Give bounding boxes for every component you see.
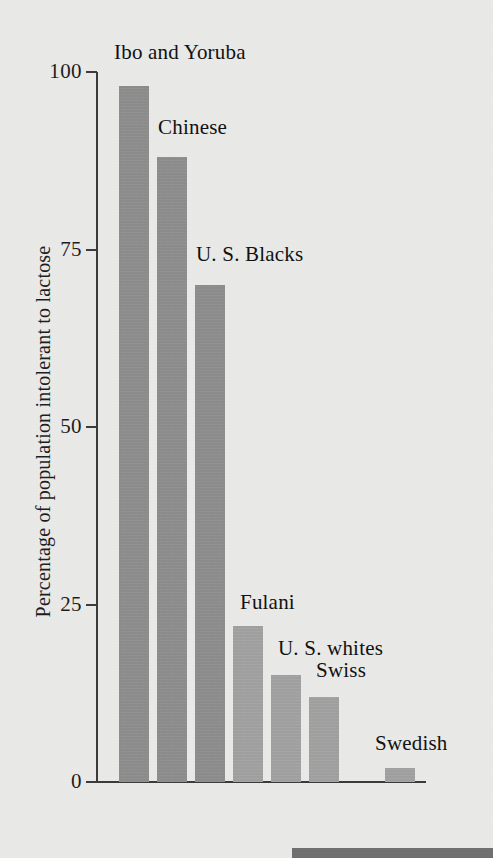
bar-chinese [157, 157, 187, 782]
bar-label-swedish: Swedish [375, 733, 448, 754]
bar-label-fulani: Fulani [240, 592, 295, 613]
bar-us-whites [271, 675, 301, 782]
bar-label-us-whites: U. S. whites [278, 638, 383, 659]
y-tick-mark-100 [86, 71, 97, 73]
bar-fill [385, 768, 415, 782]
bar-label-us-blacks: U. S. Blacks [196, 244, 303, 265]
y-tick-mark-50 [86, 426, 97, 428]
bar-fill [233, 626, 263, 782]
y-tick-mark-75 [86, 249, 97, 251]
bar-swedish [385, 768, 415, 782]
bar-fill [157, 157, 187, 782]
bar-us-blacks [195, 285, 225, 782]
bar-fill [119, 86, 149, 782]
bar-label-ibo-and-yoruba: Ibo and Yoruba [114, 42, 246, 63]
bar-fulani [233, 626, 263, 782]
bar-swiss [309, 697, 339, 782]
bar-fill [271, 675, 301, 782]
bar-fill [309, 697, 339, 782]
bar-label-chinese: Chinese [158, 117, 227, 138]
lactose-intolerance-bar-chart: 100 75 50 25 0 Percentage of population … [0, 0, 493, 858]
bar-fill [195, 285, 225, 782]
y-axis-title: Percentage of population intolerant to l… [32, 67, 55, 797]
bar-label-swiss: Swiss [316, 660, 366, 681]
y-tick-mark-25 [86, 604, 97, 606]
bar-ibo-and-yoruba [119, 86, 149, 782]
y-tick-mark-0 [86, 781, 97, 783]
bottom-edge-strip [292, 848, 493, 858]
